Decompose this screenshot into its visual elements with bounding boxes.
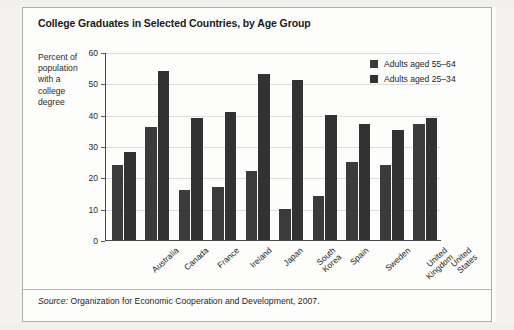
bar (212, 187, 224, 240)
source-text: Organization for Economic Cooperation an… (70, 296, 319, 306)
bar (279, 209, 291, 240)
page-margin-bottom (0, 322, 514, 330)
x-axis-category-label: Japan (282, 246, 305, 268)
chart-legend: Adults aged 55–64Adults aged 25–34 (370, 59, 456, 89)
x-axis-category-label: UnitedStates (449, 246, 480, 276)
x-axis-category-label: Canada (183, 246, 211, 273)
x-axis-category-label: Ireland (249, 246, 274, 270)
legend-label: Adults aged 25–34 (384, 74, 456, 84)
figure-container: College Graduates in Selected Countries,… (22, 7, 492, 322)
x-axis-category-label: Australia (150, 246, 181, 275)
x-axis-category-label-line: Japan (282, 246, 305, 268)
y-axis-caption: Percent ofpopulationwith acollegedegree (38, 52, 94, 108)
y-tick-label: 30 (88, 142, 98, 152)
y-tick-label: 60 (88, 48, 98, 58)
y-tick-mark (101, 210, 105, 211)
x-axis-category-label-line: Canada (183, 246, 211, 273)
y-tick-label: 10 (88, 205, 98, 215)
y-axis-caption-line: degree (38, 97, 94, 108)
bar (258, 74, 270, 240)
x-axis-category-label: Sweden (384, 246, 413, 273)
bar (346, 162, 358, 240)
bar (380, 165, 392, 240)
figure-title: College Graduates in Selected Countries,… (38, 17, 311, 29)
x-axis-category-label-line: Australia (150, 246, 181, 275)
y-gridline (106, 53, 440, 54)
y-tick-label: 20 (88, 173, 98, 183)
y-tick-mark (101, 84, 105, 85)
bar (225, 112, 237, 240)
y-tick-mark (101, 116, 105, 117)
scanned-page: College Graduates in Selected Countries,… (0, 0, 514, 330)
legend-swatch-icon (370, 60, 378, 68)
bar (179, 190, 191, 240)
x-axis-category-label: SouthKorea (315, 246, 344, 275)
y-axis-caption-line: Percent of (38, 52, 94, 63)
bar (246, 171, 258, 240)
y-tick-label: 50 (88, 79, 98, 89)
x-axis-category-label-line: Spain (348, 246, 370, 267)
x-axis-category-label: UnitedKingdom (418, 246, 455, 282)
y-gridline (106, 116, 440, 117)
page-margin-left (0, 0, 22, 330)
x-axis-category-label: Spain (348, 246, 370, 267)
legend-item: Adults aged 25–34 (370, 74, 456, 84)
x-axis-category-label-line: Sweden (384, 246, 413, 273)
x-axis-category-label-line: France (215, 246, 241, 270)
bar (292, 80, 304, 240)
page-margin-right (496, 0, 514, 330)
y-tick-mark (101, 178, 105, 179)
x-axis-line (105, 240, 441, 241)
bar (313, 196, 325, 240)
bar (191, 118, 203, 240)
bar (426, 118, 438, 240)
source-label: Source: (38, 296, 68, 306)
page-margin-top (0, 0, 514, 7)
source-divider (23, 289, 491, 290)
y-tick-mark (101, 147, 105, 148)
y-tick-label: 0 (93, 236, 98, 246)
y-axis-caption-line: population (38, 63, 94, 74)
bar (359, 124, 371, 240)
source-note: Source: Organization for Economic Cooper… (38, 296, 320, 306)
legend-label: Adults aged 55–64 (384, 59, 456, 69)
bar (413, 124, 425, 240)
legend-item: Adults aged 55–64 (370, 59, 456, 69)
y-tick-label: 40 (88, 111, 98, 121)
x-axis-category-label: France (215, 246, 241, 270)
bar (145, 127, 157, 240)
bar (325, 115, 337, 240)
y-tick-mark (101, 53, 105, 54)
bar (392, 130, 404, 240)
bar (158, 71, 170, 240)
y-axis-caption-line: with a (38, 74, 94, 85)
bar (124, 152, 136, 240)
bar (112, 165, 124, 240)
y-tick-mark (101, 241, 105, 242)
legend-swatch-icon (370, 75, 378, 83)
x-axis-category-label-line: Ireland (249, 246, 274, 270)
y-axis-caption-line: college (38, 86, 94, 97)
